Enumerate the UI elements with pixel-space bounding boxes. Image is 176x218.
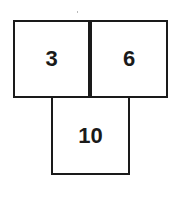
box-label: 6 [123, 46, 135, 72]
box-top-right: 6 [90, 20, 168, 98]
box-top-left: 3 [13, 20, 91, 98]
box-bottom-center: 10 [51, 96, 130, 175]
box-label: 10 [78, 123, 102, 149]
speck-mark [77, 11, 78, 13]
box-label: 3 [45, 46, 57, 72]
